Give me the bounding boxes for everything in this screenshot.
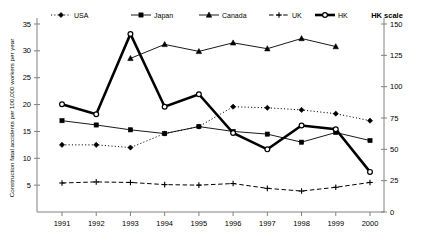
marker-diamond: [94, 142, 99, 147]
marker-plus: [276, 12, 282, 18]
legend-label-hk: HK: [338, 12, 348, 19]
marker-circle: [265, 147, 270, 152]
series-hk: [60, 32, 373, 175]
right-tick-label: 100: [390, 82, 403, 91]
marker-diamond: [59, 142, 64, 147]
legend-label-usa: USA: [74, 12, 89, 19]
marker-square: [128, 128, 132, 132]
marker-circle: [231, 131, 236, 136]
marker-plus: [299, 188, 305, 194]
series-line-japan: [62, 121, 370, 142]
left-tick-label: 20: [23, 100, 31, 109]
legend-label-japan: Japan: [154, 12, 173, 20]
marker-triangle: [162, 42, 167, 47]
hk-scale-title: HK scale: [371, 11, 403, 20]
series-line-uk: [62, 182, 370, 191]
marker-diamond: [58, 12, 63, 17]
marker-diamond: [367, 118, 372, 123]
marker-circle: [162, 104, 167, 109]
legend-item-canada[interactable]: Canada: [199, 12, 247, 19]
left-tick-label: 35: [23, 20, 31, 29]
legend-label-canada: Canada: [222, 12, 247, 19]
marker-plus: [196, 182, 202, 188]
x-axis-ticks: 1991199219931994199519961997199819992000: [54, 212, 379, 228]
axes-group: [37, 18, 384, 212]
marker-square: [94, 123, 98, 127]
right-tick-label: 50: [390, 145, 398, 154]
left-tick-label: 25: [23, 73, 31, 82]
left-tick-label: 15: [23, 127, 31, 136]
marker-square: [265, 132, 269, 136]
right-tick-label: 25: [390, 176, 398, 185]
legend-item-hk[interactable]: HK: [315, 12, 348, 19]
x-tick-label: 1997: [259, 219, 276, 228]
x-tick-label: 1995: [191, 219, 208, 228]
series-japan: [60, 119, 372, 145]
chart-figure: 5101520253035025507510012515019911992199…: [0, 0, 426, 245]
marker-plus: [230, 181, 236, 187]
legend-item-uk[interactable]: UK: [269, 12, 302, 19]
x-tick-label: 2000: [362, 219, 379, 228]
legend-item-japan[interactable]: Japan: [131, 12, 173, 20]
marker-circle: [299, 123, 304, 128]
left-tick-label: 5: [27, 181, 31, 190]
marker-circle: [128, 32, 133, 37]
left-tick-label: 10: [23, 154, 31, 163]
marker-circle: [333, 127, 338, 132]
marker-square: [139, 13, 143, 17]
marker-square: [299, 140, 303, 144]
series-canada: [128, 36, 339, 61]
legend-label-uk: UK: [292, 12, 302, 19]
x-tick-label: 1993: [122, 219, 139, 228]
marker-diamond: [128, 145, 133, 150]
marker-plus: [93, 179, 99, 185]
marker-square: [60, 119, 64, 123]
line-chart-canvas: 5101520253035025507510012515019911992199…: [0, 0, 426, 245]
right-tick-label: 0: [390, 208, 394, 217]
marker-square: [368, 138, 372, 142]
x-tick-label: 1991: [54, 219, 71, 228]
marker-plus: [367, 180, 373, 186]
marker-circle: [60, 102, 65, 107]
x-tick-label: 1999: [327, 219, 344, 228]
marker-circle: [94, 112, 99, 117]
legend: USAJapanCanadaUKHK: [51, 12, 348, 20]
marker-square: [163, 131, 167, 135]
marker-plus: [128, 180, 134, 186]
right-tick-label: 75: [390, 114, 398, 123]
marker-circle: [323, 13, 328, 18]
right-tick-label: 125: [390, 51, 403, 60]
x-tick-label: 1992: [88, 219, 105, 228]
marker-square: [197, 124, 201, 128]
marker-circle: [368, 169, 373, 174]
series-line-hk: [62, 34, 370, 172]
marker-circle: [196, 92, 201, 97]
marker-diamond: [231, 104, 236, 109]
right-tick-label: 150: [390, 20, 403, 29]
x-tick-label: 1998: [293, 219, 310, 228]
marker-triangle: [299, 36, 304, 41]
x-tick-label: 1994: [156, 219, 173, 228]
marker-plus: [59, 180, 65, 186]
x-tick-label: 1996: [225, 219, 242, 228]
marker-diamond: [299, 107, 304, 112]
marker-diamond: [265, 105, 270, 110]
marker-triangle: [230, 40, 235, 45]
left-tick-label: 30: [23, 46, 31, 55]
legend-item-usa[interactable]: USA: [51, 12, 89, 19]
y-axis-title: Construction fatal accidents per 100,000…: [8, 39, 15, 198]
marker-plus: [162, 182, 168, 188]
marker-plus: [265, 186, 271, 192]
marker-diamond: [333, 111, 338, 116]
series-uk: [59, 179, 373, 194]
marker-plus: [333, 184, 339, 190]
